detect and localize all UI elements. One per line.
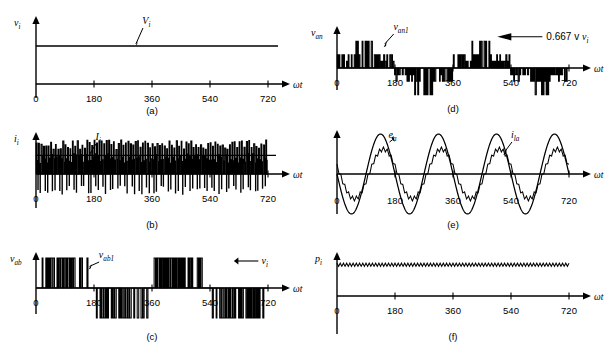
x-tick-label: 720 [260, 93, 276, 104]
panel-c-vab1-arrowhead [89, 264, 92, 269]
y-axis-arrowhead [333, 252, 340, 260]
panel-e-ea-annotation-text: ea [389, 129, 397, 143]
x-axis-arrowhead [282, 80, 290, 87]
x-tick-label: 180 [387, 305, 403, 316]
panel-b-caption: (b) [146, 219, 158, 230]
x-axis-label: ωt [293, 80, 303, 90]
x-tick-label: 720 [260, 193, 276, 204]
panel-b-y-label-text: ii [14, 133, 19, 147]
x-axis-label: ωt [594, 64, 604, 74]
panel-d-van1-annotation: van1 [393, 21, 408, 35]
x-tick-label: 180 [86, 193, 102, 204]
x-tick-label: 180 [387, 77, 403, 88]
panel-c-y-label: vab [10, 253, 22, 267]
panel-d-y-label-text: van [311, 27, 323, 41]
x-tick-label: 720 [561, 77, 577, 88]
x-axis-arrowhead [583, 170, 591, 177]
panel-a-vi-annotation: Vi [142, 15, 150, 29]
x-axis-label: ωt [594, 292, 604, 302]
panel-d-gain-annotation: 0.667 v vi [497, 31, 588, 45]
panel-d-van1-leader [385, 34, 394, 44]
x-axis-arrowhead [583, 64, 591, 71]
panel-a-y-label-text: vi [14, 17, 20, 31]
panel-e-ila-annotation-text: ila [511, 129, 520, 143]
panel-d-gain-text: 0.667 v vi [546, 31, 588, 45]
panel-c: ωt0180360540720vabvab1vi(c) [10, 249, 303, 342]
x-axis-arrowhead [282, 284, 290, 291]
x-tick-label: 540 [202, 93, 218, 104]
x-tick-label: 0 [334, 77, 339, 88]
panel-f-caption: (f) [449, 331, 458, 342]
x-axis-arrowhead [282, 170, 290, 177]
x-tick-label: 0 [33, 193, 38, 204]
panel-d-gain-arrowhead [497, 33, 511, 40]
panel-a: ωt0180360540720viVi(a) [14, 15, 303, 116]
x-tick-label: 540 [503, 77, 519, 88]
x-axis-label: ωt [594, 170, 604, 180]
x-tick-label: 540 [202, 297, 218, 308]
x-axis-arrowhead [583, 292, 591, 299]
panel-a-vi-annotation-text: Vi [142, 15, 150, 29]
y-axis-arrowhead [32, 252, 39, 260]
x-tick-label: 0 [334, 195, 339, 206]
panel-c-y-label-text: vab [10, 253, 22, 267]
waveform-pi-ripple [337, 263, 569, 266]
panel-a-annotation-leader [136, 28, 143, 44]
x-tick-label: 720 [561, 195, 577, 206]
panel-d-y-label: van [311, 27, 323, 41]
x-tick-label: 0 [33, 297, 38, 308]
y-axis-arrowhead [32, 16, 39, 24]
x-tick-label: 720 [561, 305, 577, 316]
panel-c-caption: (c) [146, 331, 157, 342]
x-tick-label: 0 [334, 305, 339, 316]
panel-a-y-label: vi [14, 17, 20, 31]
panel-c-vi-arrowhead [234, 257, 239, 264]
panel-f: ωt0180360540720pi(f) [314, 252, 604, 342]
panel-c-vab1-annotation: vab1 [99, 249, 114, 263]
x-axis-label: ωt [293, 170, 303, 180]
panel-a-caption: (a) [146, 105, 158, 116]
waveform-vab-pwm [36, 258, 268, 318]
panel-e-ea-annotation: ea [389, 129, 397, 143]
panel-e-caption: (e) [447, 219, 459, 230]
panel-d-van1-annotation-text: van1 [393, 21, 408, 35]
x-tick-label: 360 [445, 305, 461, 316]
panel-b: ωt0180360540720iiIi(b) [14, 131, 303, 230]
waveform-figure: ωt0180360540720viVi(a)ωt0180360540720iiI… [0, 0, 604, 360]
panel-d-caption: (d) [447, 103, 459, 114]
x-tick-label: 180 [86, 93, 102, 104]
y-axis-arrowhead [333, 130, 340, 138]
panel-c-vi-annotation: vi [262, 255, 268, 269]
panel-a-axes: ωt0180360540720 [32, 16, 302, 104]
y-axis-arrowhead [333, 26, 340, 34]
x-tick-label: 540 [202, 193, 218, 204]
panel-b-y-label: ii [14, 133, 19, 147]
panel-c-vab1-annotation-text: vab1 [99, 249, 114, 263]
x-axis-label: ωt [293, 284, 303, 294]
x-tick-label: 360 [144, 93, 160, 104]
x-tick-label: 360 [144, 193, 160, 204]
y-axis-arrowhead [32, 132, 39, 140]
x-tick-label: 0 [33, 93, 38, 104]
x-tick-label: 540 [503, 305, 519, 316]
panel-e-ila-leader [505, 142, 512, 152]
panel-f-y-label: pi [314, 253, 322, 267]
panel-d: ωt0180360540720vanvan10.667 v vi(d) [311, 21, 604, 114]
panel-e: ωt0180360540720eaila(e) [333, 129, 603, 230]
panel-f-y-label-text: pi [314, 253, 322, 267]
waveform-ii-pulses [36, 140, 268, 194]
panel-c-vi-annotation-text: vi [262, 255, 268, 269]
panel-e-ila-annotation: ila [511, 129, 520, 143]
